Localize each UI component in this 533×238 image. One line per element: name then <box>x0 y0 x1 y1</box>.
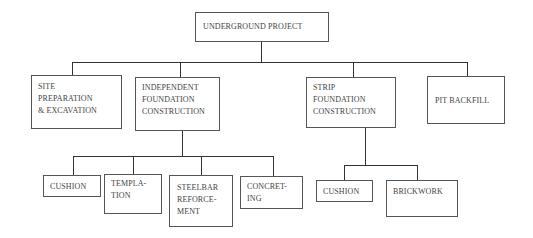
node-underground-project: UNDERGROUND PROJECT <box>195 12 329 42</box>
node-strip-foundation: STRIP FOUNDATION CONSTRUCTION <box>306 77 396 128</box>
node-label: STRIP FOUNDATION CONSTRUCTION <box>313 82 376 118</box>
node-site-preparation: SITE PREPARATION & EXCAVATION <box>31 75 122 129</box>
connector-to-cushion-1 <box>73 156 74 175</box>
node-steelbar-reforcement: STEELBAR REFORCE- MENT <box>169 175 233 227</box>
node-templation: TEMPLA- TION <box>104 174 162 214</box>
node-label: PIT BACKFILL <box>435 95 489 107</box>
node-label: UNDERGROUND PROJECT <box>203 21 302 33</box>
node-cushion-independent: CUSHION <box>43 175 101 197</box>
connector-independent-bar <box>73 156 274 157</box>
node-label: CUSHION <box>323 186 359 198</box>
connector-to-pit <box>467 62 468 76</box>
connector-to-independent <box>180 62 181 77</box>
node-concreting: CONCRET- ING <box>240 176 303 209</box>
connector-to-brickwork <box>417 165 418 180</box>
node-label: STEELBAR REFORCE- MENT <box>177 182 218 218</box>
connector-root-down <box>261 42 262 63</box>
org-chart-diagram: UNDERGROUND PROJECT SITE PREPARATION & E… <box>0 0 533 238</box>
node-cushion-strip: CUSHION <box>316 180 373 202</box>
node-label: INDEPENDENT FOUNDATION CONSTRUCTION <box>142 82 205 118</box>
node-label: CONCRET- ING <box>247 181 287 205</box>
node-brickwork: BRICKWORK <box>386 180 458 217</box>
connector-level1-bar <box>72 62 468 63</box>
connector-strip-bar <box>344 165 418 166</box>
node-pit-backfill: PIT BACKFILL <box>427 76 505 124</box>
connector-to-templation <box>133 156 134 174</box>
node-label: BRICKWORK <box>393 186 443 198</box>
connector-to-steelbar <box>201 156 202 175</box>
connector-independent-down <box>182 131 183 156</box>
connector-to-concreting <box>273 156 274 176</box>
node-label: CUSHION <box>50 181 86 193</box>
node-independent-foundation: INDEPENDENT FOUNDATION CONSTRUCTION <box>135 77 220 131</box>
node-label: TEMPLA- TION <box>111 178 146 202</box>
connector-strip-down <box>365 128 366 165</box>
connector-to-strip <box>353 62 354 77</box>
node-label: SITE PREPARATION & EXCAVATION <box>38 81 97 117</box>
connector-to-cushion-2 <box>344 165 345 180</box>
connector-to-site <box>72 62 73 75</box>
